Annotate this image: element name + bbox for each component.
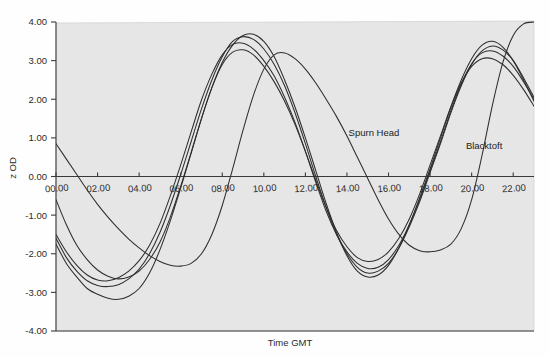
y-tick-label: 1.00 [29, 132, 48, 143]
y-axis-title: z OD [7, 157, 18, 179]
y-tick-label: 2.00 [29, 94, 48, 105]
x-tick-label: 12.00 [294, 182, 318, 195]
x-tick-label: 20.00 [460, 182, 484, 195]
y-tick-label: -3.00 [25, 287, 47, 298]
x-tick-label: 02.00 [86, 182, 110, 195]
figure-container: 4.003.002.001.000.00-1.00-2.00-3.00-4.00… [0, 0, 549, 357]
y-tick-label: -2.00 [25, 248, 47, 259]
y-tick-label: 3.00 [29, 55, 48, 66]
x-tick-label: 22.00 [502, 182, 526, 195]
annotation-label-2: Blacktoft [466, 140, 503, 151]
y-tick-group: 4.003.002.001.000.00-1.00-2.00-3.00-4.00 [25, 16, 56, 336]
x-tick-label: 00.00 [45, 182, 69, 195]
y-tick-label: -1.00 [25, 210, 47, 221]
y-tick-label: -4.00 [25, 325, 47, 336]
annotation-label-1: Spurn Head [349, 127, 400, 138]
y-tick-label: 4.00 [29, 16, 48, 27]
x-tick-label: 08.00 [211, 182, 235, 195]
x-tick-label: 10.00 [252, 182, 276, 195]
x-axis-title: Time GMT [268, 337, 313, 348]
x-tick-label: 04.00 [128, 182, 152, 195]
x-tick-label: 16.00 [377, 182, 401, 195]
y-tick-label: 0.00 [29, 171, 48, 182]
tidal-curve-chart: 4.003.002.001.000.00-1.00-2.00-3.00-4.00… [0, 0, 549, 357]
x-tick-label: 14.00 [335, 182, 359, 195]
